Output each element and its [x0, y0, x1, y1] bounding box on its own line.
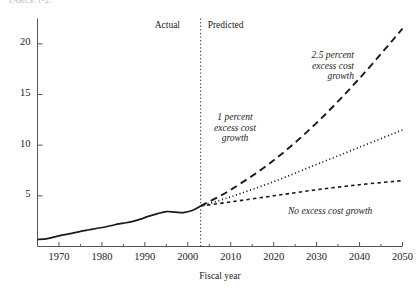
y-tick-label: 15	[5, 87, 31, 99]
x-tick-label: 2050	[381, 251, 417, 263]
annotation-line: No excess cost growth	[288, 206, 372, 217]
x-tick-label: 2040	[338, 251, 382, 263]
annotation-mid-growth: 1 percent excess cost growth	[196, 112, 274, 144]
annotation-no-growth: No excess cost growth	[288, 206, 372, 217]
chart-figure: TABLE 1-2. 5 10 15 20 1970 1980 1990 200…	[0, 0, 417, 293]
annotation-line: 2.5 percent	[282, 50, 354, 61]
x-tick-label: 2020	[252, 251, 296, 263]
x-tick-label: 1980	[80, 251, 124, 263]
x-tick-label: 2000	[166, 251, 210, 263]
series-short-dash	[201, 181, 403, 206]
x-tick-label: 2030	[295, 251, 339, 263]
annotation-line: 1 percent	[196, 112, 274, 123]
annotation-high-growth: 2.5 percent excess cost growth	[282, 50, 354, 82]
annotation-line: excess cost	[196, 123, 274, 134]
phase-label-actual: Actual	[155, 20, 180, 31]
y-tick-label: 5	[5, 188, 31, 200]
y-tick-label: 10	[5, 138, 31, 150]
annotation-line: excess cost	[282, 61, 354, 72]
y-tick-label: 20	[5, 36, 31, 48]
annotation-line: growth	[196, 133, 274, 144]
phase-label-predicted: Predicted	[208, 20, 244, 31]
x-tick-label: 1970	[37, 251, 81, 263]
x-tick-label: 2010	[209, 251, 253, 263]
x-axis-title: Fiscal year	[150, 271, 290, 282]
annotation-line: growth	[282, 71, 354, 82]
x-tick-label: 1990	[123, 251, 167, 263]
series-solid	[38, 206, 201, 239]
chart-plot-area	[0, 0, 417, 293]
